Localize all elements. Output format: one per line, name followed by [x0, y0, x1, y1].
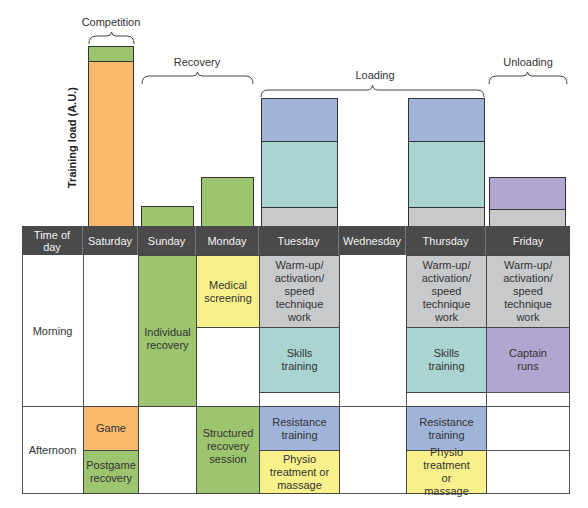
bar-segment-warmup [490, 209, 565, 226]
phase-label-loading: Loading [335, 69, 415, 81]
brace-competition [88, 31, 135, 45]
brace-unloading [488, 71, 568, 85]
header-sunday: Sunday [138, 226, 196, 255]
bar-segment-warmup [409, 207, 484, 226]
cell-tuesday-physio: Physio treatment or massage [259, 450, 340, 494]
phase-label-recovery: Recovery [158, 56, 236, 68]
bar-segment-skills [409, 141, 484, 207]
cell-thursday-skills: Skills training [406, 327, 487, 393]
y-axis-label: Training load (A.U.) [66, 87, 78, 188]
bar-segment-captain-runs [490, 178, 565, 209]
bar-segment-skills [262, 141, 337, 207]
bar-saturday [88, 46, 134, 227]
bar-monday [201, 177, 254, 227]
cell-sunday-individual-recovery: Individual recovery [138, 255, 197, 407]
bar-segment-recovery [142, 207, 193, 226]
cell-saturday-game: Game [83, 406, 139, 451]
cell-monday-structured-recovery: Structured recovery session [196, 406, 260, 494]
cell-tuesday-skills: Skills training [259, 327, 340, 393]
cell-saturday-postgame-recovery: Postgame recovery [83, 450, 139, 494]
cell-thursday-warmup: Warm-up/ activation/ speed technique wor… [406, 255, 487, 328]
row-divider [486, 392, 570, 393]
header-thursday: Thursday [406, 226, 486, 255]
cell-friday-warmup: Warm-up/ activation/ speed technique wor… [486, 255, 570, 328]
brace-loading [260, 84, 485, 98]
bar-segment-recovery [89, 47, 133, 61]
cell-monday-medical-screening: Medical screening [196, 255, 260, 328]
row-label-afternoon: Afternoon [22, 406, 83, 494]
phase-label-competition: Competition [76, 16, 146, 28]
bar-thursday [408, 98, 485, 227]
bar-segment-resistance [262, 99, 337, 141]
cell-friday-captain-runs: Captain runs [486, 327, 570, 393]
header-saturday: Saturday [83, 226, 138, 255]
header-friday: Friday [486, 226, 570, 255]
row-label-morning: Morning [22, 255, 83, 406]
cell-tuesday-warmup: Warm-up/ activation/ speed technique wor… [259, 255, 340, 328]
header-wednesday: Wednesday [339, 226, 406, 255]
bar-sunday [141, 206, 194, 227]
bar-segment-warmup [262, 207, 337, 226]
header-time-of-day: Time of day [22, 226, 83, 255]
header-monday: Monday [196, 226, 259, 255]
bar-segment-game [89, 61, 133, 226]
bar-friday [489, 177, 566, 227]
row-divider [486, 450, 570, 451]
cell-tuesday-resistance: Resistance training [259, 406, 340, 451]
bar-tuesday [261, 98, 338, 227]
bar-segment-recovery [202, 178, 253, 226]
phase-label-unloading: Unloading [488, 56, 568, 68]
header-tuesday: Tuesday [259, 226, 339, 255]
cell-thursday-resistance: Resistance training [406, 406, 487, 451]
brace-recovery [141, 71, 254, 85]
cell-thursday-physio: Physio treatment or massage [406, 450, 487, 494]
bar-segment-resistance [409, 99, 484, 141]
